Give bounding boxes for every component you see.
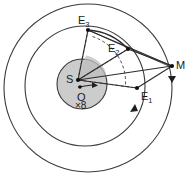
label-sun: S bbox=[66, 74, 73, 85]
orbit-diagram-svg bbox=[0, 0, 188, 176]
label-mars: M bbox=[176, 60, 185, 71]
outer-orbit-direction-arrow-icon bbox=[168, 76, 176, 83]
label-earth-3-subscript: 3 bbox=[85, 20, 89, 29]
label-earth-2-subscript: 2 bbox=[115, 48, 119, 57]
point-marker-sun-center bbox=[78, 85, 82, 89]
point-marker-mars bbox=[170, 64, 174, 68]
label-earth-1: E1 bbox=[141, 91, 153, 105]
point-marker-e2 bbox=[126, 47, 130, 51]
label-earth-1-subscript: 1 bbox=[148, 96, 152, 105]
label-earth-2: E2 bbox=[108, 43, 120, 57]
point-marker-sun bbox=[76, 78, 80, 82]
orbit-diagram: S O ×8 E1 E2 E3 M bbox=[0, 0, 188, 176]
label-scale-note: ×8 bbox=[75, 101, 86, 111]
middle-orbit-direction-arrow-icon bbox=[130, 104, 138, 112]
point-marker-e1 bbox=[135, 86, 139, 90]
label-earth-3: E3 bbox=[78, 15, 90, 29]
